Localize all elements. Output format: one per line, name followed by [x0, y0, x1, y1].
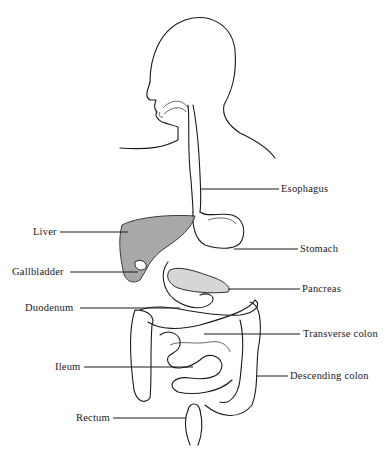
label-rectum: Rectum [76, 412, 110, 424]
label-transverse-colon: Transverse colon [303, 328, 378, 340]
label-pancreas: Pancreas [302, 283, 341, 295]
label-descending-colon: Descending colon [290, 370, 369, 382]
label-duodenum: Duodenum [25, 302, 73, 314]
label-liver: Liver [33, 226, 57, 238]
label-stomach: Stomach [300, 243, 338, 255]
label-gallbladder: Gallbladder [12, 266, 64, 278]
label-ileum: Ileum [55, 361, 81, 373]
digestive-system-diagram: Esophagus Liver Stomach Gallbladder Panc… [0, 0, 390, 449]
label-esophagus: Esophagus [281, 183, 328, 195]
